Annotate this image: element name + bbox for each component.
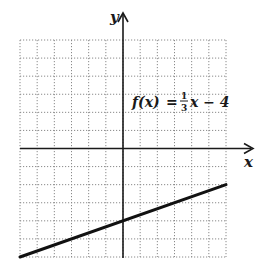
y-axis-label: y <box>109 8 120 26</box>
fraction-numerator: 1 <box>181 91 187 101</box>
function-lhs: f(x) <box>131 94 160 110</box>
x-axis-label: x <box>243 153 254 171</box>
fraction-denominator: 3 <box>181 103 187 113</box>
function-label: f(x) = 1 3 x − 4 <box>131 91 230 113</box>
function-rest: x − 4 <box>189 94 230 110</box>
coordinate-plane: y x f(x) = 1 3 x − 4 <box>0 0 274 277</box>
equals-sign: = <box>166 94 178 110</box>
